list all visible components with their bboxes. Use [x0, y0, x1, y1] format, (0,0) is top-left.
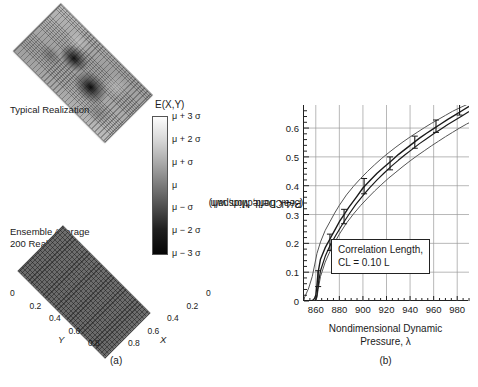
y-tick-label: 0.4 [286, 180, 299, 191]
y-tick-label: 0.5 [286, 151, 299, 162]
y-tick-label: 0.2 [286, 238, 299, 249]
colorbar-tick-label: μ + 3 σ [172, 111, 201, 121]
ensemble-y-tick-label: 0.2 [30, 301, 42, 311]
y-axis-label: Peak Deflection, w/h (3/4-Chord, Midspan… [245, 105, 267, 301]
y-axis-label-line2: (3/4-Chord, Midspan) [209, 197, 303, 209]
typical-realization-surface [18, 8, 146, 136]
y-tick-label: 0.1 [286, 267, 299, 278]
y-tick-label: 0.6 [286, 123, 299, 134]
ensemble-x-tick-label: 0.6 [148, 326, 160, 336]
y-tick-label: 0.3 [286, 209, 299, 220]
colorbar-title: E(X,Y) [155, 99, 184, 111]
ensemble-y-tick-label: 0.6 [69, 326, 81, 336]
ensemble-y-axis-name: Y [58, 334, 64, 345]
x-tick-label: 900 [355, 304, 371, 315]
ensemble-x-tick-label: 0 [206, 288, 211, 298]
colorbar-gradient [152, 116, 168, 255]
x-tick-label: 860 [308, 304, 324, 315]
ensemble-x-axis-name: X [160, 334, 166, 345]
x-axis-label-line2: Pressure, λ [303, 335, 468, 348]
colorbar-tick-label: μ + σ [172, 157, 193, 167]
x-tick-label: 940 [402, 304, 418, 315]
x-tick-label: 960 [426, 304, 442, 315]
x-axis-label-line1: Nondimensional Dynamic [303, 322, 468, 335]
typical-realization-mesh [13, 3, 153, 143]
colorbar-tick-label: μ − 2 σ [172, 225, 201, 235]
panel-b: Peak Deflection, w/h (3/4-Chord, Midspan… [239, 0, 478, 387]
panel-a-caption: (a) [110, 355, 122, 367]
ensemble-y-tick-label: 0.8 [88, 338, 100, 348]
correlation-length-annotation: Correlation Length, CL = 0.10 L [331, 239, 430, 274]
colorbar-tick-label: μ + 2 σ [172, 134, 201, 144]
panel-a: Typical Realization E(X,Y) μ + 3 σμ + 2 … [0, 0, 239, 387]
ensemble-y-tick-label: 0.4 [49, 313, 61, 323]
panel-b-caption: (b) [303, 355, 468, 366]
colorbar-tick-label: μ − 3 σ [172, 248, 201, 258]
ensemble-x-tick-label: 0.8 [128, 338, 140, 348]
colorbar [152, 116, 166, 253]
ensemble-x-tick-label: 0.4 [167, 313, 179, 323]
annotation-line1: Correlation Length, [338, 243, 423, 256]
ensemble-average-surface [22, 230, 144, 352]
colorbar-tick-label: μ [172, 180, 177, 190]
ensemble-y-tick-label: 0 [10, 288, 15, 298]
x-axis-label: Nondimensional Dynamic Pressure, λ [303, 322, 468, 348]
colorbar-tick-label: μ − σ [172, 202, 193, 212]
typical-realization-label: Typical Realization [10, 104, 89, 116]
x-tick-label: 980 [449, 304, 465, 315]
figure-root: Typical Realization E(X,Y) μ + 3 σμ + 2 … [0, 0, 478, 387]
x-tick-label: 920 [379, 304, 395, 315]
ensemble-x-tick-label: 0.2 [187, 301, 199, 311]
annotation-line2: CL = 0.10 L [338, 256, 423, 269]
x-tick-label: 880 [331, 304, 347, 315]
y-tick-label: 0 [294, 296, 299, 307]
